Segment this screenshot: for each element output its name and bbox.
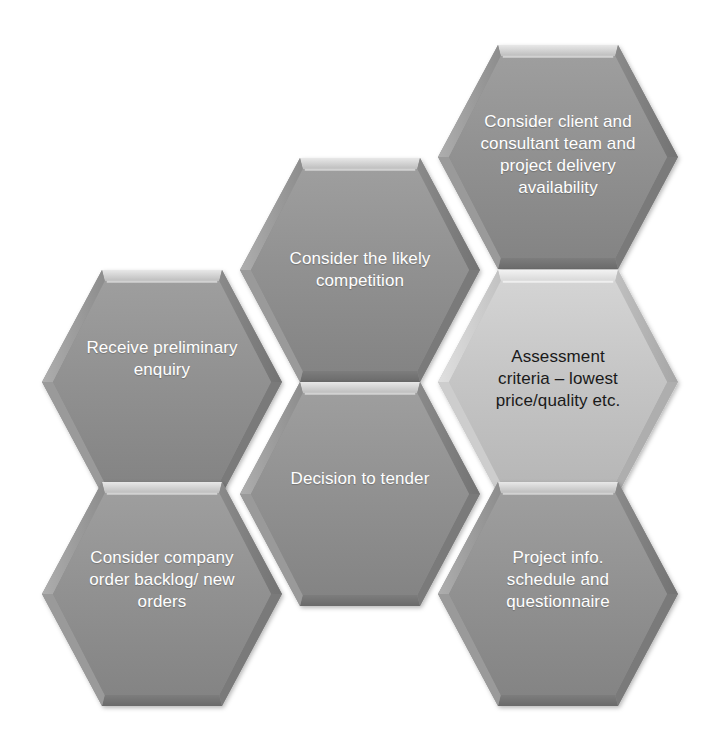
bevel-bottom-decision-to-tender (300, 595, 420, 606)
hexagon-shapes-layer (0, 0, 718, 730)
hexagon-diagram: Consider client and consultant team and … (0, 0, 718, 730)
hexagon-consider-client-consultant[interactable] (438, 45, 678, 269)
bevel-top-receive-preliminary-enquiry (102, 270, 222, 281)
bevel-bottom-project-info-schedule-questionnaire (498, 695, 618, 706)
bevel-top-consider-company-order-backlog (102, 482, 222, 493)
bevel-top-consider-likely-competition (300, 158, 420, 169)
bevel-top-decision-to-tender (300, 382, 420, 393)
hexagon-assessment-criteria[interactable] (438, 270, 678, 494)
bevel-bottom-consider-likely-competition (300, 371, 420, 382)
hexagon-consider-company-order-backlog[interactable] (42, 482, 282, 706)
bevel-top-assessment-criteria (498, 270, 618, 281)
bevel-top-consider-client-consultant (498, 45, 618, 56)
hexagon-decision-to-tender[interactable] (240, 382, 480, 606)
bevel-bottom-consider-company-order-backlog (102, 695, 222, 706)
hexagon-receive-preliminary-enquiry[interactable] (42, 270, 282, 494)
hexagon-project-info-schedule-questionnaire[interactable] (438, 482, 678, 706)
bevel-bottom-consider-client-consultant (498, 258, 618, 269)
bevel-top-project-info-schedule-questionnaire (498, 482, 618, 493)
hexagon-consider-likely-competition[interactable] (240, 158, 480, 382)
